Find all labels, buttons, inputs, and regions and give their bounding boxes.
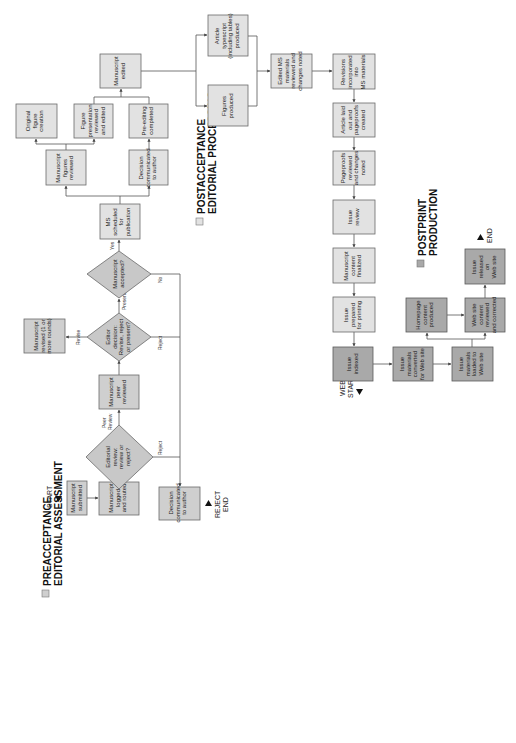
node-decision-reject: Decisioncommunicatedto author xyxy=(159,483,200,522)
node-manuscript-edited: Manuscriptedited xyxy=(100,54,141,88)
svg-text:PREACCEPTANCE: PREACCEPTANCE xyxy=(42,496,53,586)
node-materials-loaded: Issuematerialsloaded toWeb site xyxy=(452,347,493,381)
svg-text:Pre-editingcompleted: Pre-editingcompleted xyxy=(141,106,154,135)
node-figure-presentation: Figurepresentationreviewedand edited xyxy=(74,104,113,138)
node-article-typescript: Articletypescript(including tables)produ… xyxy=(208,13,248,58)
svg-text:START: START xyxy=(46,485,53,508)
node-issue-review: Issuereview xyxy=(333,200,375,234)
node-issue-indexed: Issueindexed xyxy=(333,347,373,381)
node-edited-ms-materials: Edited MSmaterialsreviewed andchanges no… xyxy=(271,51,312,90)
svg-text:Originalfigurecreation: Originalfigurecreation xyxy=(25,110,44,131)
web-start-arrow-icon xyxy=(356,389,363,395)
svg-text:Edited MSmaterialsreviewed and: Edited MSmaterialsreviewed andchanges no… xyxy=(277,51,303,90)
node-issue-prepared: Issuepreparedfor printing xyxy=(333,297,375,332)
reject-end-arrow-icon xyxy=(205,500,212,506)
node-issue-released: IssuereleasedonWeb site xyxy=(465,249,505,284)
node-figures-reviewed: Manuscriptfiguresreviewed xyxy=(46,150,86,185)
end-arrow-icon xyxy=(477,234,484,240)
svg-text:POSTACCEPTANCE: POSTACCEPTANCE xyxy=(196,118,207,214)
svg-text:Editorialreview:review orrejec: Editorialreview:review orreject? xyxy=(105,445,131,469)
svg-text:EDITORIAL ASSESSMENT: EDITORIAL ASSESSMENT xyxy=(53,461,64,586)
node-pageproofs-reviewed: Pageproofsreviewedand changesnoted xyxy=(333,151,375,185)
node-materials-converted: Issuematerialsconvertedfor Web site xyxy=(393,347,433,381)
node-ms-scheduled: MSscheduledforpublication xyxy=(100,204,140,239)
node-manuscript-revised: Manuscriptrevised (1 ormore rounds) xyxy=(24,318,65,354)
node-peer-reviewed: Manuscriptpeerreviewed xyxy=(99,375,139,409)
svg-text:PRODUCTION: PRODUCTION xyxy=(428,189,439,256)
svg-text:Manuscriptaccepted?: Manuscriptaccepted? xyxy=(112,259,125,289)
svg-text:Reject: Reject xyxy=(157,440,163,455)
node-manuscript-accepted: Manuscriptaccepted? xyxy=(87,251,151,298)
svg-text:Manuscriptsubmitted: Manuscriptsubmitted xyxy=(70,483,83,513)
node-manuscript-submitted: Manuscriptsubmitted xyxy=(67,481,87,515)
node-pre-editing: Pre-editingcompleted xyxy=(129,104,168,138)
svg-text:Yes: Yes xyxy=(109,241,115,250)
node-decision-communicated-post: Decisioncommunicatedto author xyxy=(129,148,168,187)
svg-text:Manuscriptrevised (1 ormore ro: Manuscriptrevised (1 ormore rounds) xyxy=(33,318,52,354)
node-figures-produced: Figuresproduced xyxy=(208,85,248,126)
svg-text:Issuereview: Issuereview xyxy=(347,208,360,226)
legend-preacceptance: PREACCEPTANCE EDITORIAL ASSESSMENT xyxy=(42,461,64,597)
legend-postprint: POSTPRINT PRODUCTION xyxy=(417,189,439,267)
svg-text:No: No xyxy=(157,276,163,283)
node-website-reviewed: Web sitecontentreviewedand corrected xyxy=(465,297,505,334)
node-article-laid-out: Article laidout andpageproofscreated xyxy=(333,103,375,137)
svg-text:Figuresproduced: Figuresproduced xyxy=(221,93,234,118)
node-editorial-review-decision: Editorialreview:review orreject? xyxy=(86,425,153,489)
node-revisions-incorporated: RevisionsincorporatedintoMS materials xyxy=(333,54,375,90)
svg-text:Revise: Revise xyxy=(75,329,81,345)
editorial-workflow-flowchart: PREACCEPTANCE EDITORIAL ASSESSMENT POSTA… xyxy=(0,0,516,743)
svg-text:Reject: Reject xyxy=(157,335,163,350)
svg-text:REJECT: REJECT xyxy=(214,490,221,518)
node-content-finalized: Manuscriptcontentfinalized xyxy=(333,248,375,283)
svg-text:POSTPRINT: POSTPRINT xyxy=(417,199,428,256)
svg-text:Review: Review xyxy=(107,413,113,430)
node-original-figure-creation: Originalfigurecreation xyxy=(16,104,57,138)
svg-text:END: END xyxy=(486,228,493,243)
node-homepage-content: Homepagecontentproduced xyxy=(406,298,447,332)
end-terminal: END xyxy=(477,228,493,243)
reject-end-terminal: REJECT END xyxy=(205,490,229,518)
svg-text:WEB: WEB xyxy=(339,380,346,396)
node-editor-decision: Editordecision:Revise, rejector present? xyxy=(87,313,151,361)
svg-text:END: END xyxy=(222,497,229,512)
